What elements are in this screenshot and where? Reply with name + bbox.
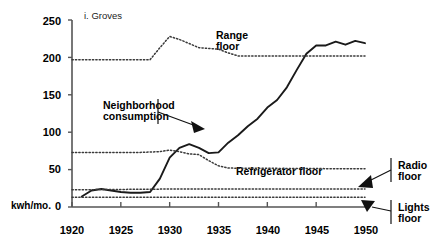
neighborhood-leader-line: [158, 112, 196, 126]
neighborhood-arrow-head: [191, 121, 205, 133]
series-range-floor: [72, 36, 365, 59]
lights-floor-arrow-head: [361, 200, 375, 212]
series-radio-floor: [72, 189, 365, 190]
plot-area: [0, 0, 440, 246]
radio-floor-arrow-head: [358, 175, 373, 188]
lights-floor-leader-line: [372, 207, 391, 211]
chart-figure: i. Groves 250 200 150 100 50 0 kwh/mo. 1…: [0, 0, 440, 246]
axes-group: [68, 20, 365, 207]
series-neighborhood-consumption: [82, 41, 365, 197]
data-series-group: [72, 36, 365, 197]
leader-lines-group: [158, 99, 391, 224]
